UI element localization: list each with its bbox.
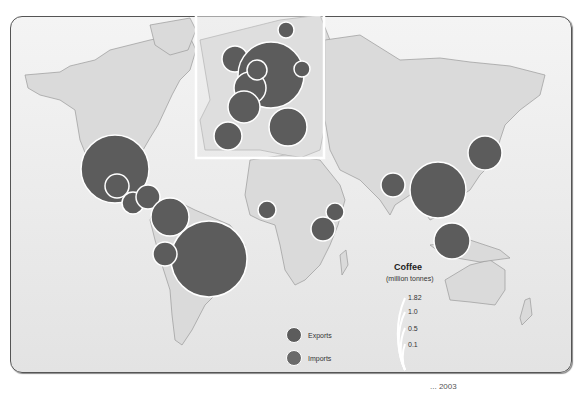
imports-swatch-icon (286, 350, 302, 366)
legend-subtitle: (million tonnes) (386, 275, 433, 282)
bubble-spain[interactable] (214, 122, 242, 150)
bubble-poland[interactable] (294, 61, 310, 77)
exports-label: Exports (308, 332, 332, 339)
scale-label-1: 1.82 (408, 294, 422, 301)
bubble-peru[interactable] (153, 242, 177, 266)
legend-title: Coffee (394, 262, 422, 272)
legend-key-exports: Exports (286, 327, 332, 343)
bubble-france[interactable] (228, 91, 260, 123)
bubble-finland[interactable] (278, 22, 294, 38)
caption: ... 2003 (430, 382, 457, 391)
scale-label-3: 0.5 (408, 325, 418, 332)
scale-label-2: 1.0 (408, 308, 418, 315)
legend-key-imports: Imports (286, 350, 331, 366)
scale-label-4: 0.1 (408, 341, 418, 348)
australia (445, 260, 505, 305)
bubble-uganda[interactable] (311, 217, 335, 241)
bubble-india[interactable] (381, 173, 405, 197)
new-zealand (520, 298, 532, 325)
madagascar (340, 250, 348, 275)
imports-label: Imports (308, 355, 331, 362)
bubble-ivory-coast[interactable] (258, 201, 276, 219)
exports-swatch-icon (286, 327, 302, 343)
bubble-vietnam[interactable] (410, 162, 466, 218)
bubble-brazil[interactable] (171, 221, 247, 297)
bubble-netherlands[interactable] (247, 60, 267, 80)
bubble-japan[interactable] (468, 136, 502, 170)
bubble-indonesia[interactable] (434, 223, 470, 259)
bubble-italy[interactable] (269, 108, 307, 146)
scale-arcs (398, 298, 405, 370)
